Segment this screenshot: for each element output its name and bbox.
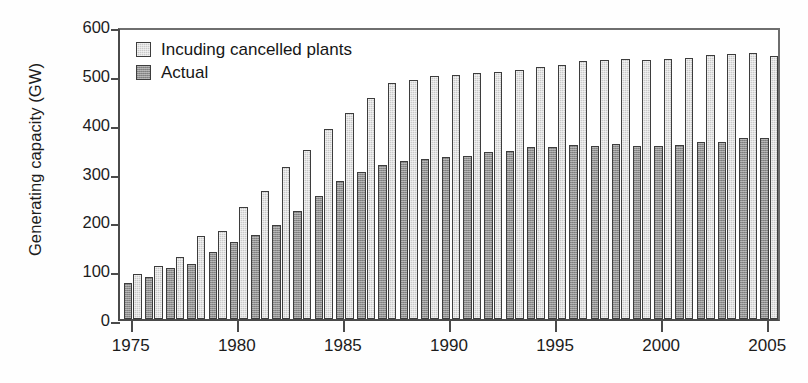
x-axis-tick-label: 1990 (430, 336, 468, 356)
x-axis-tick-labels: 1975198019851990199520002005 (118, 336, 780, 366)
bar-actual (187, 264, 195, 319)
bar-actual (697, 142, 705, 319)
x-axis-tick-label: 1985 (324, 336, 362, 356)
legend-item: Incuding cancelled plants (136, 38, 352, 61)
bar-including-cancelled (558, 65, 566, 319)
bar-including-cancelled (536, 67, 544, 319)
x-axis-tick (555, 321, 557, 332)
legend-item: Actual (136, 61, 352, 84)
bar-actual (230, 242, 238, 319)
bar-actual (145, 277, 153, 319)
x-axis-tick-label: 1995 (536, 336, 574, 356)
y-axis-tick (111, 127, 120, 129)
x-axis-tick (237, 321, 239, 332)
bar-including-cancelled (664, 59, 672, 319)
bar-including-cancelled (430, 76, 438, 319)
y-axis-tick-label: 200 (52, 213, 110, 232)
bar-actual (124, 283, 132, 319)
bar-actual (357, 172, 365, 319)
chart-legend: Incuding cancelled plantsActual (136, 38, 352, 84)
bar-actual (272, 225, 280, 319)
y-axis-tick-label: 400 (52, 116, 110, 135)
bar-actual (209, 252, 217, 319)
bar-including-cancelled (324, 129, 332, 319)
bar-including-cancelled (218, 231, 226, 319)
y-axis-tick-label: 0 (52, 311, 110, 330)
bar-including-cancelled (621, 59, 629, 319)
bar-including-cancelled (770, 56, 778, 319)
bar-actual (527, 147, 535, 319)
bar-including-cancelled (239, 207, 247, 319)
legend-label: Incuding cancelled plants (161, 40, 352, 60)
bar-actual (506, 151, 514, 319)
y-axis-tick-label: 600 (52, 18, 110, 37)
bar-including-cancelled (579, 61, 587, 319)
bar-including-cancelled (261, 191, 269, 319)
bar-actual (400, 161, 408, 319)
legend-swatch-icon (136, 42, 151, 57)
bar-including-cancelled (303, 150, 311, 319)
x-axis-ticks (118, 321, 780, 333)
y-axis-tick (111, 176, 120, 178)
bar-including-cancelled (282, 167, 290, 319)
bar-actual (739, 138, 747, 319)
x-axis-tick (449, 321, 451, 332)
bar-including-cancelled (388, 83, 396, 319)
bar-actual (548, 147, 556, 319)
x-axis-tick-label: 2005 (748, 336, 786, 356)
bar-actual (633, 146, 641, 319)
bar-including-cancelled (176, 257, 184, 320)
bar-including-cancelled (197, 236, 205, 319)
bar-actual (315, 196, 323, 319)
bar-including-cancelled (685, 58, 693, 319)
plot-area: Incuding cancelled plantsActual (118, 28, 780, 321)
bar-actual (654, 146, 662, 319)
x-axis-tick (343, 321, 345, 332)
y-axis-tick-label: 300 (52, 165, 110, 184)
bar-including-cancelled (345, 113, 353, 319)
x-axis-tick (131, 321, 133, 332)
bar-actual (569, 145, 577, 319)
bar-including-cancelled (133, 274, 141, 319)
bar-actual (442, 157, 450, 319)
bar-actual (378, 165, 386, 319)
bar-including-cancelled (515, 70, 523, 319)
y-axis-tick-label: 500 (52, 67, 110, 86)
bar-including-cancelled (154, 266, 162, 319)
bar-including-cancelled (473, 73, 481, 319)
bar-actual (484, 152, 492, 319)
bar-including-cancelled (642, 60, 650, 319)
y-axis-tick (111, 273, 120, 275)
x-axis-tick-label: 2000 (642, 336, 680, 356)
bar-actual (675, 145, 683, 319)
legend-swatch-icon (136, 65, 151, 80)
legend-label: Actual (161, 63, 208, 83)
bar-including-cancelled (600, 60, 608, 319)
bar-actual (591, 146, 599, 319)
y-axis-tick (111, 78, 120, 80)
x-axis-tick-label: 1980 (218, 336, 256, 356)
bar-including-cancelled (749, 53, 757, 319)
bar-actual (251, 235, 259, 319)
x-axis-tick (767, 321, 769, 332)
x-axis-tick (661, 321, 663, 332)
bar-including-cancelled (727, 54, 735, 319)
bar-including-cancelled (494, 72, 502, 319)
bar-actual (718, 142, 726, 319)
bar-actual (336, 181, 344, 319)
y-axis-tick (111, 224, 120, 226)
bar-actual (166, 268, 174, 319)
bar-chart-figure: Generating capacity (GW) 010020030040050… (0, 0, 808, 383)
bar-actual (293, 211, 301, 319)
bar-including-cancelled (409, 80, 417, 319)
y-axis-tick (111, 29, 120, 31)
y-axis-tick-label: 100 (52, 262, 110, 281)
bar-actual (421, 159, 429, 319)
x-axis-tick-label: 1975 (112, 336, 150, 356)
bar-including-cancelled (367, 98, 375, 319)
bar-actual (463, 156, 471, 319)
bar-actual (612, 144, 620, 319)
bar-actual (760, 138, 768, 319)
bar-including-cancelled (706, 55, 714, 319)
bar-including-cancelled (452, 75, 460, 319)
